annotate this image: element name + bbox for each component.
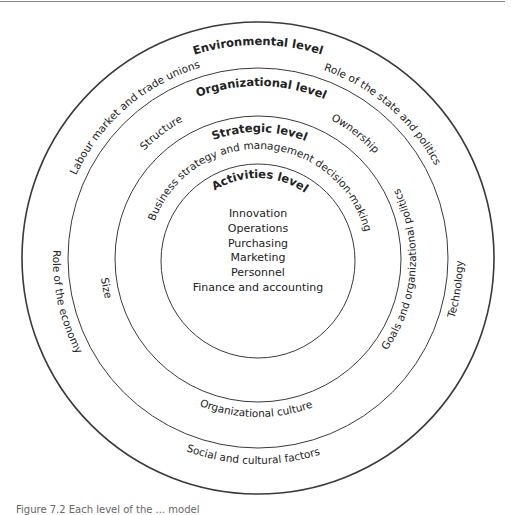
activities-list: Innovation Operations Purchasing Marketi… (158, 207, 358, 296)
label-structure: Structure (137, 112, 184, 152)
activity-item: Finance and accounting (158, 281, 358, 296)
label-ownership: Ownership (330, 111, 383, 156)
label-size: Size (99, 276, 115, 299)
label-role-of-state: Role of the state and politics (323, 61, 444, 167)
activity-item: Operations (158, 222, 358, 237)
environmental-level-heading: Environmental level (191, 34, 325, 58)
label-labour-market: Labour market and trade unions (67, 58, 201, 177)
activity-item: Personnel (158, 266, 358, 281)
label-organizational-culture: Organizational culture (198, 396, 313, 419)
activity-item: Purchasing (158, 237, 358, 252)
activity-item: Marketing (158, 251, 358, 266)
label-social-cultural: Social and cultural factors (185, 442, 321, 466)
label-goals-politics: Goals and organizational politics (379, 187, 418, 352)
organizational-level-heading: Organizational level (194, 75, 329, 102)
figure-caption: Figure 7.2 Each level of the ... model (16, 504, 199, 515)
activity-item: Innovation (158, 207, 358, 222)
